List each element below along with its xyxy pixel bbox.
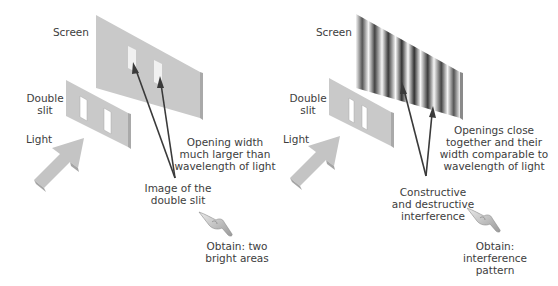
slit-opening-1 [349, 98, 354, 123]
left-result-text: Image of the double slit [140, 182, 216, 206]
left-light-label: Light [26, 133, 52, 145]
slit-opening-1 [80, 96, 87, 121]
left-screen-label: Screen [34, 26, 89, 38]
right-condition-text: Openings close together and their width … [434, 124, 554, 172]
right-light-label: Light [283, 133, 309, 145]
left-light-arrow [34, 138, 84, 192]
slit-opening-2 [104, 108, 111, 134]
right-obtain-text: Obtain: interference pattern [460, 240, 530, 276]
left-hand-icon [199, 212, 232, 236]
left-condition-text: Opening width much larger than wavelengt… [172, 136, 278, 172]
left-double-slit-label: Double slit [24, 92, 66, 116]
left-screen [96, 15, 203, 120]
right-double-slit-label: Double slit [287, 92, 329, 116]
slit-opening-2 [362, 105, 367, 130]
right-result-text: Constructive and destructive interferenc… [388, 186, 478, 222]
right-screen-label: Screen [296, 26, 352, 38]
left-obtain-text: Obtain: two bright areas [202, 240, 272, 264]
